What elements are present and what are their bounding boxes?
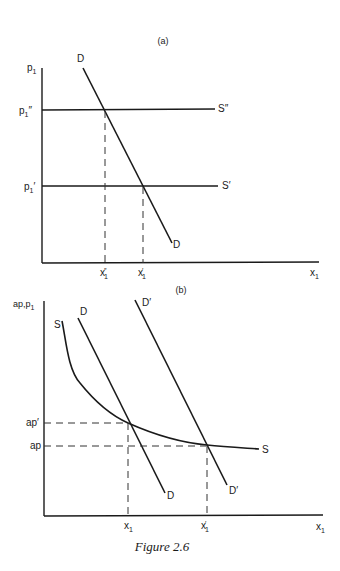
demand-label-top: D [80,306,87,317]
price-label-ap: ap [30,440,42,451]
panel-b-x-axis-label: x1 [316,521,325,534]
panel-a: (a) p1 x1 S″ S′ p1″ p1′ D D x1″ x1′ [19,36,319,280]
supply-label-bottom: S [262,444,269,455]
demand-line-d [83,68,172,243]
price-label-ap-prime: ap′ [26,417,39,428]
qty-label-x1-prime: x1′ [201,520,209,533]
panel-b-x-axis [44,515,323,516]
panel-b-y-axis-label: ap,p1 [13,299,35,311]
panel-a-x-axis [42,262,319,263]
panel-a-title: (a) [158,36,169,46]
panel-b: (b) ap,p1 x1 S S D D D′ D′ ap′ ap x1 x1′ [13,285,325,534]
supply-line-s-double-prime [42,109,215,110]
figure-2-6: (a) p1 x1 S″ S′ p1″ p1′ D D x1″ x1′ (b) … [0,0,340,571]
panel-a-x-axis-label: x1 [310,267,319,280]
qty-label-x1-prime: x1′ [138,267,146,280]
price-label-p1-double-prime: p1″ [19,105,32,118]
demand-line-d [78,318,165,493]
panel-a-y-axis-label: p1 [27,62,37,75]
qty-label-x1-double-prime: x1″ [100,267,108,280]
panel-b-title: (b) [176,285,187,295]
qty-label-x1: x1 [124,520,133,533]
supply-label-s-double-prime: S″ [218,103,229,114]
supply-label-top: S [54,319,61,330]
demand-label-top: D [77,53,84,64]
demand-label-bottom: D [173,239,180,250]
demand-prime-label-bottom: D′ [229,485,238,496]
supply-label-s-prime: S′ [222,180,231,191]
demand-line-d-prime [135,300,227,485]
figure-caption: Figure 2.6 [134,539,190,554]
price-label-p1-prime: p1′ [24,181,35,194]
supply-curve-s [62,321,259,449]
demand-prime-label-top: D′ [142,297,151,308]
demand-label-bottom: D [167,490,174,501]
